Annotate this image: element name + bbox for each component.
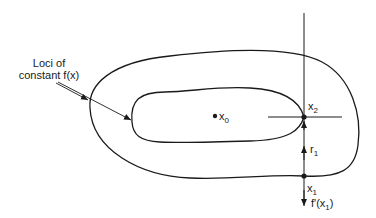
caption-pointer-outer <box>56 83 88 100</box>
point-x1 <box>301 173 306 178</box>
label-x1: x1 <box>307 182 317 194</box>
label-x0: x0 <box>219 110 229 122</box>
point-x0 <box>213 114 217 118</box>
label-x2: x2 <box>308 100 318 112</box>
caption-line-2: constant f(x) <box>14 69 84 81</box>
contour-diagram <box>0 0 376 218</box>
inner-contour <box>132 88 304 143</box>
caption-line-1: Loci of <box>14 57 84 69</box>
label-gradient: f'(x1) <box>311 197 333 209</box>
label-r1: r1 <box>310 143 318 155</box>
loci-caption: Loci of constant f(x) <box>14 57 84 81</box>
point-x2 <box>301 114 306 119</box>
